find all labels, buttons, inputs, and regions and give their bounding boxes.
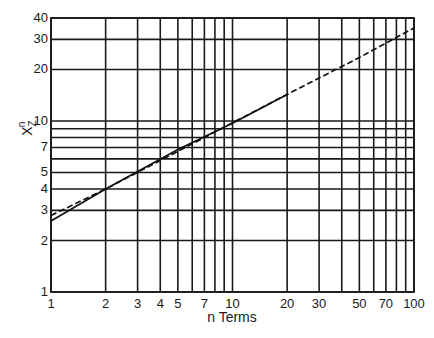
- y-tick-label: 2: [41, 233, 48, 248]
- y-tick-labels: 12345710203040: [34, 10, 48, 299]
- x-axis-label: n Terms: [207, 309, 257, 325]
- y-label-subscript: Z: [27, 120, 38, 126]
- x-tick-label: 5: [174, 296, 181, 311]
- y-tick-label: 7: [41, 139, 48, 154]
- y-tick-label: 40: [34, 10, 48, 25]
- x-tick-label: 100: [403, 296, 425, 311]
- log-log-chart: 1234571020305070100 12345710203040 n Ter…: [0, 0, 434, 338]
- x-tick-label: 30: [312, 296, 326, 311]
- x-tick-label: 2: [102, 296, 109, 311]
- y-tick-label: 4: [41, 181, 48, 196]
- x-tick-label: 50: [352, 296, 366, 311]
- x-tick-label: 70: [379, 296, 393, 311]
- y-tick-label: 5: [41, 164, 48, 179]
- x-gridlines: [51, 18, 414, 292]
- y-tick-label: 3: [41, 202, 48, 217]
- y-axis-label: XZn: [16, 120, 38, 135]
- y-tick-label: 30: [34, 31, 48, 46]
- x-tick-label: 1: [47, 296, 54, 311]
- x-tick-label: 20: [280, 296, 294, 311]
- x-tick-label: 4: [157, 296, 164, 311]
- x-tick-label: 3: [134, 296, 141, 311]
- y-tick-label: 20: [34, 61, 48, 76]
- y-tick-label: 1: [41, 284, 48, 299]
- y-label-superscript: n: [16, 122, 27, 128]
- svg-text:XZn: XZn: [16, 120, 38, 135]
